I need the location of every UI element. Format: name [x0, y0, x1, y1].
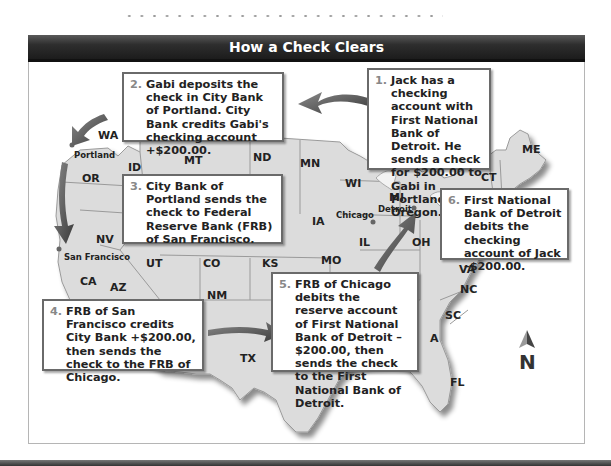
step-4-box: 4. FRB of San Francisco credits City Ban… [42, 299, 204, 371]
state-label-me: ME [522, 143, 540, 156]
state-label-ga: A [430, 332, 439, 345]
state-label-ks: KS [262, 257, 279, 270]
state-label-oh: OH [412, 236, 431, 249]
state-label-id: ID [128, 161, 141, 174]
state-label-ca: CA [80, 275, 97, 288]
north-arrow-icon [517, 330, 537, 350]
city-label-san-francisco: San Francisco [64, 252, 130, 262]
state-label-nc: NC [460, 283, 477, 296]
step-number: 5. [279, 278, 291, 291]
step-text: FRB of Chicago debits the reserve accoun… [295, 278, 402, 410]
state-label-nd: ND [253, 151, 271, 164]
city-dot-chicago [371, 220, 376, 225]
state-label-mo: MO [321, 254, 341, 267]
page-bottom-rule [0, 460, 611, 466]
city-label-portland: Portland [74, 150, 115, 160]
step-2-box: 2. Gabi deposits the check in City Bank … [122, 72, 284, 142]
state-label-wa: WA [98, 129, 119, 142]
state-label-co: CO [203, 257, 220, 270]
step-3-box: 3. City Bank of Portland sends the check… [122, 174, 283, 244]
state-label-wi: WI [345, 177, 361, 190]
state-label-il: IL [359, 236, 370, 249]
step-text: City Bank of Portland sends the check to… [146, 180, 272, 246]
city-label-chicago: Chicago [336, 210, 374, 220]
state-label-sc: SC [445, 309, 461, 322]
state-label-fl: FL [450, 376, 465, 389]
compass-rose: N [517, 330, 537, 354]
state-label-tx: TX [240, 352, 257, 365]
compass-north-label: N [519, 350, 536, 374]
step-number: 4. [50, 305, 62, 318]
city-dot-san-francisco [57, 247, 62, 252]
state-label-nm: NM [207, 289, 227, 302]
state-label-ut: UT [146, 257, 163, 270]
state-label-ct: CT [481, 171, 497, 184]
step-6-box: 6. First National Bank of Detroit debits… [440, 188, 569, 260]
step-number: 2. [130, 78, 142, 91]
step-number: 3. [130, 180, 142, 193]
step-number: 6. [448, 194, 460, 207]
step-5-box: 5. FRB of Chicago debits the reserve acc… [271, 272, 419, 372]
state-label-ia: IA [312, 215, 325, 228]
state-label-nv: NV [96, 233, 114, 246]
state-label-mn: MN [300, 157, 320, 170]
step-1-box: 1. Jack has a checking account with Firs… [367, 68, 491, 170]
state-label-or: OR [82, 172, 100, 185]
state-label-az: AZ [110, 281, 127, 294]
step-number: 1. [375, 74, 387, 87]
arrow-step1-to-step2 [298, 92, 368, 114]
